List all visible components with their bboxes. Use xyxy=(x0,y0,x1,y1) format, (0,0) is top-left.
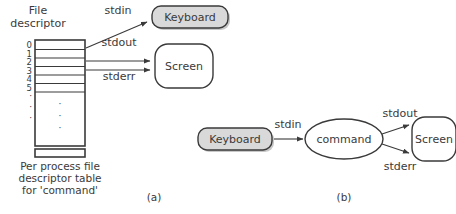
keyboard-b-label: Keyboard xyxy=(209,133,261,146)
panel-b-label: (b) xyxy=(337,191,352,203)
panel-b: Keyboard stdin command stdout stderr Scr… xyxy=(198,107,456,203)
fd-index-ellipsis-2: · xyxy=(29,102,32,112)
panel-a: File descriptor 0 1 2 3 4 5 · xyxy=(10,4,230,203)
screen-b-label: Screen xyxy=(415,133,453,146)
fd-index-ellipsis-1: · xyxy=(29,91,32,101)
command-b-label: command xyxy=(317,133,372,146)
fd-caption-line3: for 'command' xyxy=(22,184,98,196)
node-keyboard-b: Keyboard xyxy=(198,128,274,152)
arrow-stderr-b xyxy=(382,144,409,153)
figure-standard-streams: File descriptor 0 1 2 3 4 5 · xyxy=(0,0,456,214)
label-stderr-a: stderr xyxy=(103,70,136,83)
fd-body-ellipsis-1: · xyxy=(59,99,62,109)
arrow-stdout-b xyxy=(382,125,409,134)
fd-body-ellipsis-3: · xyxy=(59,123,62,133)
label-stdin-a: stdin xyxy=(104,4,131,17)
label-stdin-b: stdin xyxy=(274,118,301,131)
fd-caption-line2: descriptor table xyxy=(18,172,101,184)
fd-heading-line2: descriptor xyxy=(10,17,66,30)
node-screen-b: Screen xyxy=(412,117,456,161)
panel-a-label: (a) xyxy=(147,191,162,203)
fd-heading-line1: File xyxy=(29,4,48,17)
label-stdout-b: stdout xyxy=(382,107,418,120)
node-screen-a: Screen xyxy=(155,44,213,88)
screen-a-label: Screen xyxy=(165,60,203,73)
fd-index-ellipsis-3: · xyxy=(29,113,32,123)
keyboard-a-label: Keyboard xyxy=(164,11,216,24)
fd-body-ellipsis-2: · xyxy=(59,111,62,121)
fd-table: 0 1 2 3 4 5 · · · · · · xyxy=(27,40,85,157)
fd-caption-line1: Per process file xyxy=(20,160,100,172)
node-command-b: command xyxy=(305,119,383,159)
fd-table-last-row xyxy=(35,149,85,157)
label-stdout-a: stdout xyxy=(101,36,137,49)
diagram-canvas: File descriptor 0 1 2 3 4 5 · xyxy=(0,0,456,214)
node-keyboard-a: Keyboard xyxy=(152,6,230,30)
label-stderr-b: stderr xyxy=(384,160,417,173)
